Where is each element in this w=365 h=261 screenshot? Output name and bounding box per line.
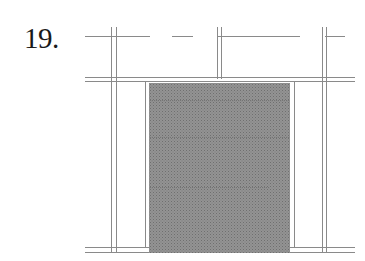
right-stud <box>323 27 327 253</box>
header-line <box>85 78 355 82</box>
door-elevation-diagram <box>0 0 365 261</box>
center-stud <box>218 27 222 79</box>
left-stud <box>112 27 117 253</box>
door-panel <box>149 83 290 253</box>
